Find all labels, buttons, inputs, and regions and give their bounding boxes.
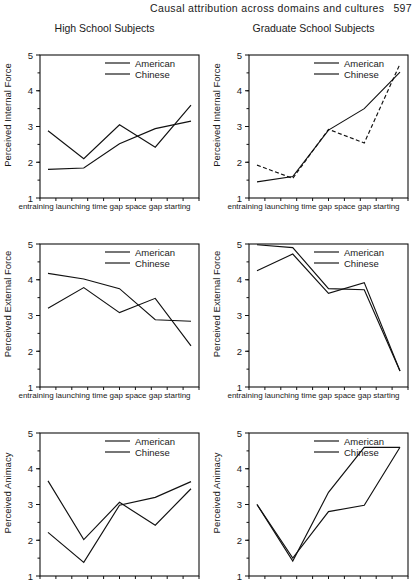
svg-text:American: American: [344, 436, 384, 447]
svg-text:2: 2: [28, 157, 33, 168]
panel-0-plot: Perceived Internal Force 54321AmericanCh…: [0, 22, 209, 211]
svg-text:Chinese: Chinese: [344, 447, 379, 458]
svg-text:5: 5: [28, 239, 33, 250]
svg-text:Chinese: Chinese: [135, 258, 170, 269]
panel-5: Perceived Animacy 54321AmericanChinese: [209, 400, 418, 588]
chart-4: 54321AmericanChinese: [0, 400, 209, 588]
svg-text:American: American: [135, 247, 175, 258]
panel-0-xticklabels: entraining launching time gap space gap …: [0, 202, 209, 211]
running-head-title: Causal attribution across domains and cu…: [150, 2, 384, 14]
figure-row-1: High School Subjects Perceived Internal …: [0, 22, 418, 211]
svg-text:American: American: [135, 58, 175, 69]
panel-1-plot: Perceived Internal Force 54321AmericanCh…: [209, 22, 418, 211]
svg-text:American: American: [135, 436, 175, 447]
panel-2-plot: Perceived External Force 54321AmericanCh…: [0, 211, 209, 400]
chart-0: 54321AmericanChinese: [0, 22, 209, 211]
figure-row-3: Perceived Animacy 54321AmericanChinese P…: [0, 400, 418, 588]
svg-text:Chinese: Chinese: [135, 447, 170, 458]
svg-text:1: 1: [28, 571, 33, 582]
panel-1-xticklabels: entraining launching time gap space gap …: [209, 202, 418, 211]
svg-text:5: 5: [237, 50, 242, 61]
svg-text:5: 5: [237, 239, 242, 250]
svg-text:1: 1: [237, 571, 242, 582]
svg-text:3: 3: [237, 499, 242, 510]
svg-text:4: 4: [28, 463, 33, 474]
svg-text:Chinese: Chinese: [135, 69, 170, 80]
svg-text:5: 5: [28, 428, 33, 439]
panel-3: Perceived External Force 54321AmericanCh…: [209, 211, 418, 400]
figure-row-2: Perceived External Force 54321AmericanCh…: [0, 211, 418, 400]
panel-4-plot: Perceived Animacy 54321AmericanChinese: [0, 400, 209, 588]
panel-3-plot: Perceived External Force 54321AmericanCh…: [209, 211, 418, 400]
chart-2: 54321AmericanChinese: [0, 211, 209, 400]
panel-3-xticklabels: entraining launching time gap space gap …: [209, 391, 418, 400]
chart-3: 54321AmericanChinese: [209, 211, 418, 400]
panel-5-plot: Perceived Animacy 54321AmericanChinese: [209, 400, 418, 588]
figure-grid: High School Subjects Perceived Internal …: [0, 22, 418, 588]
svg-text:3: 3: [237, 121, 242, 132]
svg-text:5: 5: [237, 428, 242, 439]
svg-text:4: 4: [28, 85, 33, 96]
svg-text:2: 2: [237, 535, 242, 546]
svg-text:4: 4: [237, 85, 242, 96]
panel-1: Graduate School Subjects Perceived Inter…: [209, 22, 418, 211]
svg-text:4: 4: [237, 274, 242, 285]
svg-text:4: 4: [237, 463, 242, 474]
svg-text:American: American: [344, 247, 384, 258]
svg-text:3: 3: [28, 310, 33, 321]
svg-text:American: American: [344, 58, 384, 69]
svg-text:Chinese: Chinese: [344, 69, 379, 80]
page-root: Causal attribution across domains and cu…: [0, 0, 418, 588]
svg-text:Chinese: Chinese: [344, 258, 379, 269]
running-head: Causal attribution across domains and cu…: [0, 2, 412, 14]
chart-5: 54321AmericanChinese: [209, 400, 418, 588]
svg-text:4: 4: [28, 274, 33, 285]
svg-text:2: 2: [28, 535, 33, 546]
svg-text:3: 3: [237, 310, 242, 321]
svg-text:3: 3: [28, 121, 33, 132]
svg-text:2: 2: [28, 346, 33, 357]
svg-text:2: 2: [237, 346, 242, 357]
panel-2-xticklabels: entraining launching time gap space gap …: [0, 391, 209, 400]
panel-0: High School Subjects Perceived Internal …: [0, 22, 209, 211]
chart-1: 54321AmericanChinese: [209, 22, 418, 211]
page-number: 597: [393, 2, 412, 14]
svg-text:3: 3: [28, 499, 33, 510]
svg-text:5: 5: [28, 50, 33, 61]
panel-4: Perceived Animacy 54321AmericanChinese: [0, 400, 209, 588]
panel-2: Perceived External Force 54321AmericanCh…: [0, 211, 209, 400]
svg-text:2: 2: [237, 157, 242, 168]
